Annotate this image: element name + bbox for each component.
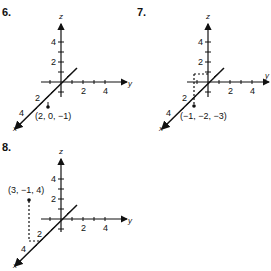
z-axis-label: z bbox=[58, 147, 63, 156]
x-tick-4: 4 bbox=[19, 108, 24, 118]
y-tick-2: 2 bbox=[81, 86, 86, 96]
y-axis-label: y bbox=[264, 71, 270, 80]
y-tick-4: 4 bbox=[103, 223, 108, 233]
z-tick-2: 2 bbox=[51, 57, 56, 67]
y-tick-4: 4 bbox=[103, 86, 108, 96]
x-tick-2: 2 bbox=[35, 93, 40, 103]
y-tick-2: 2 bbox=[81, 223, 86, 233]
point-label: (3, −1, 4) bbox=[8, 185, 44, 195]
z-tick-4: 4 bbox=[51, 37, 56, 47]
coordinate-axes-3d: z y x 2 4 2 4 2 4 (3, −1, 4) bbox=[0, 135, 135, 271]
x-axis-label: x bbox=[12, 261, 18, 270]
x-tick-4: 4 bbox=[21, 244, 26, 254]
plotted-point bbox=[192, 104, 196, 108]
z-tick-2: 2 bbox=[51, 194, 56, 204]
coordinate-axes-3d: z y x 2 4 2 4 2 4 (−1, −2, −3) bbox=[135, 0, 271, 135]
coordinate-axes-3d: z y x 2 4 2 4 2 4 (2, 0, −1) bbox=[0, 0, 135, 135]
x-tick-2: 2 bbox=[37, 229, 42, 239]
x-tick-4: 4 bbox=[166, 108, 171, 118]
plotted-point bbox=[27, 198, 31, 202]
problem-8: 8. z bbox=[0, 135, 135, 271]
x-tick-2: 2 bbox=[182, 93, 187, 103]
x-axis-label: x bbox=[12, 124, 18, 133]
z-tick-2: 2 bbox=[198, 57, 203, 67]
z-axis-label: z bbox=[205, 12, 210, 21]
y-tick-4: 4 bbox=[250, 86, 255, 96]
y-tick-2: 2 bbox=[228, 86, 233, 96]
y-axis-label: y bbox=[127, 216, 133, 225]
point-label: (2, 0, −1) bbox=[35, 111, 71, 121]
point-label: (−1, −2, −3) bbox=[180, 111, 227, 121]
problem-7: 7. bbox=[135, 0, 271, 135]
plotted-point bbox=[46, 105, 50, 109]
z-tick-4: 4 bbox=[198, 37, 203, 47]
y-axis-label: y bbox=[127, 79, 133, 88]
problem-6: 6. bbox=[0, 0, 135, 135]
z-tick-4: 4 bbox=[51, 174, 56, 184]
z-axis-label: z bbox=[58, 12, 63, 21]
